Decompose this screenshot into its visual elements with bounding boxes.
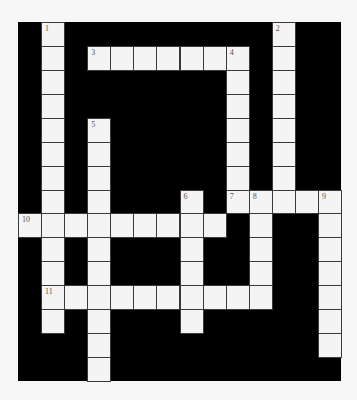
grid-cell[interactable]	[110, 213, 134, 238]
grid-cell[interactable]	[133, 46, 157, 71]
grid-cell[interactable]	[318, 333, 342, 358]
grid-cell[interactable]	[87, 237, 111, 262]
grid-cell[interactable]	[226, 118, 250, 143]
grid-cell[interactable]	[180, 261, 204, 286]
grid-cell[interactable]	[133, 213, 157, 238]
grid-cell[interactable]	[87, 333, 111, 358]
grid-cell[interactable]	[87, 166, 111, 191]
clue-number: 9	[322, 192, 326, 201]
grid-cell[interactable]	[226, 142, 250, 167]
clue-number: 5	[91, 120, 95, 129]
grid-cell[interactable]: 8	[249, 190, 273, 215]
grid-cell[interactable]	[272, 94, 296, 119]
grid-cell[interactable]	[180, 309, 204, 334]
clue-number: 6	[184, 192, 188, 201]
grid-cell[interactable]	[180, 285, 204, 310]
grid-cell[interactable]	[64, 285, 88, 310]
grid-cell[interactable]	[318, 261, 342, 286]
grid-cell[interactable]	[295, 190, 319, 215]
grid-cell[interactable]: 10	[18, 213, 42, 238]
grid-cell[interactable]: 2	[272, 22, 296, 47]
grid-cell[interactable]	[64, 213, 88, 238]
grid-cell[interactable]	[41, 190, 65, 215]
grid-cell[interactable]: 6	[180, 190, 204, 215]
grid-cell[interactable]	[180, 213, 204, 238]
grid-cell[interactable]	[87, 190, 111, 215]
grid-cell[interactable]	[226, 166, 250, 191]
grid-cell[interactable]	[41, 46, 65, 71]
grid-cell[interactable]: 1	[41, 22, 65, 47]
grid-cell[interactable]	[41, 261, 65, 286]
grid-cell[interactable]	[41, 70, 65, 95]
grid-cell[interactable]	[87, 213, 111, 238]
clue-number: 1	[45, 24, 49, 33]
grid-cell[interactable]: 4	[226, 46, 250, 71]
grid-cell[interactable]	[272, 118, 296, 143]
grid-cell[interactable]	[41, 166, 65, 191]
grid-cell[interactable]: 5	[87, 118, 111, 143]
grid-cell[interactable]	[318, 213, 342, 238]
grid-cell[interactable]	[156, 213, 180, 238]
crossword-grid: 1112347568910	[18, 22, 341, 381]
grid-cell[interactable]	[249, 285, 273, 310]
grid-cell[interactable]: 9	[318, 190, 342, 215]
grid-cell[interactable]	[87, 309, 111, 334]
grid-cell[interactable]	[133, 285, 157, 310]
clue-number: 10	[22, 215, 30, 224]
clue-number: 8	[253, 192, 257, 201]
clue-number: 4	[230, 48, 234, 57]
grid-cell[interactable]	[272, 70, 296, 95]
grid-cell[interactable]	[272, 190, 296, 215]
grid-cell[interactable]	[226, 94, 250, 119]
clue-number: 3	[91, 48, 95, 57]
grid-cell[interactable]	[180, 237, 204, 262]
grid-cell[interactable]	[41, 118, 65, 143]
grid-cell[interactable]	[272, 46, 296, 71]
clue-number: 7	[230, 192, 234, 201]
grid-cell[interactable]	[272, 142, 296, 167]
grid-cell[interactable]	[41, 309, 65, 334]
grid-cell[interactable]: 3	[87, 46, 111, 71]
grid-cell[interactable]	[226, 285, 250, 310]
grid-cell[interactable]	[87, 261, 111, 286]
grid-cell[interactable]	[110, 46, 134, 71]
grid-cell[interactable]: 7	[226, 190, 250, 215]
grid-cell[interactable]	[318, 309, 342, 334]
grid-cell[interactable]	[203, 46, 227, 71]
grid-cell[interactable]	[249, 237, 273, 262]
clue-number: 11	[45, 287, 53, 296]
grid-cell[interactable]	[318, 285, 342, 310]
grid-cell[interactable]	[203, 285, 227, 310]
grid-cell[interactable]	[110, 285, 134, 310]
grid-cell[interactable]	[87, 142, 111, 167]
grid-cell[interactable]	[41, 94, 65, 119]
grid-cell[interactable]	[41, 237, 65, 262]
grid-cell[interactable]	[318, 237, 342, 262]
grid-cell[interactable]	[41, 142, 65, 167]
grid-cell[interactable]	[87, 357, 111, 382]
grid-cell[interactable]	[203, 213, 227, 238]
grid-cell[interactable]	[156, 285, 180, 310]
grid-cell[interactable]	[41, 213, 65, 238]
grid-cell[interactable]	[272, 166, 296, 191]
clue-number: 2	[276, 24, 280, 33]
grid-cell[interactable]	[180, 46, 204, 71]
grid-cell[interactable]: 11	[41, 285, 65, 310]
grid-cell[interactable]	[87, 285, 111, 310]
grid-cell[interactable]	[249, 213, 273, 238]
grid-cell[interactable]	[156, 46, 180, 71]
grid-cell[interactable]	[226, 70, 250, 95]
grid-cell[interactable]	[249, 261, 273, 286]
